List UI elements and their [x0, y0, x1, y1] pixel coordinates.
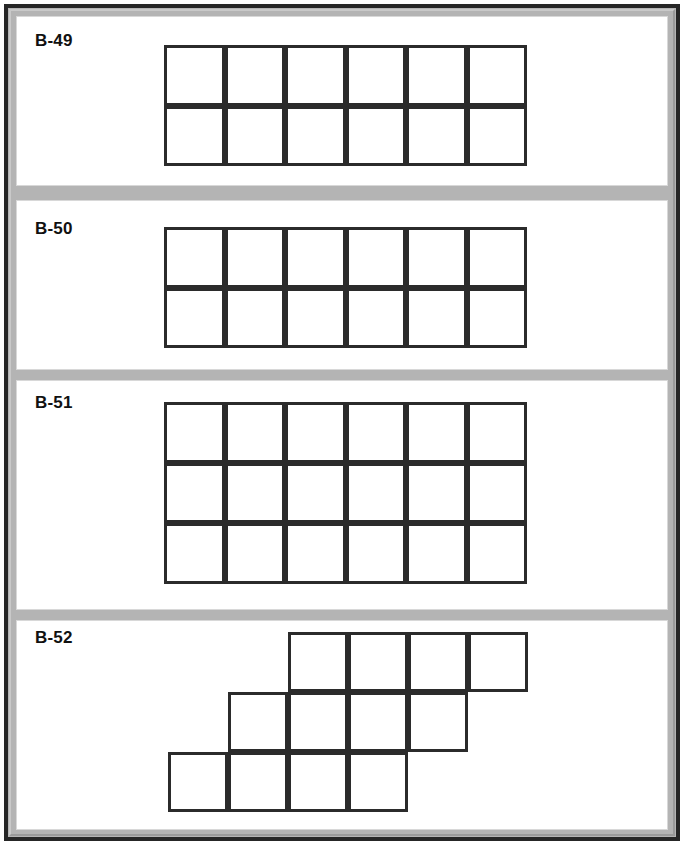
grid-cell[interactable]: [346, 463, 407, 524]
grid-cell[interactable]: [346, 402, 407, 463]
grid-cell[interactable]: [406, 402, 467, 463]
grid-cell[interactable]: [228, 692, 288, 752]
grid-cell[interactable]: [225, 288, 286, 349]
grid-cell[interactable]: [467, 227, 528, 288]
grid-cell[interactable]: [406, 227, 467, 288]
grid-cell[interactable]: [406, 463, 467, 524]
grid-cell[interactable]: [288, 752, 348, 812]
grid-cell[interactable]: [164, 106, 225, 167]
grid-cell[interactable]: [168, 752, 228, 812]
grid-cell[interactable]: [285, 288, 346, 349]
grid-cell[interactable]: [467, 402, 528, 463]
grid-cell[interactable]: [467, 463, 528, 524]
grid-cell[interactable]: [346, 106, 407, 167]
worksheet-page: B-49B-50B-51B-52: [0, 0, 684, 845]
figure-b-51: [164, 402, 527, 584]
grid-cell[interactable]: [164, 463, 225, 524]
grid-cell[interactable]: [225, 227, 286, 288]
grid-cell[interactable]: [346, 227, 407, 288]
grid-cell[interactable]: [467, 288, 528, 349]
grid-cell[interactable]: [467, 106, 528, 167]
grid-cell[interactable]: [406, 106, 467, 167]
grid-cell[interactable]: [406, 288, 467, 349]
grid-cell[interactable]: [164, 288, 225, 349]
problem-label-b-49: B-49: [35, 31, 73, 51]
grid-cell[interactable]: [164, 402, 225, 463]
grid-cell[interactable]: [225, 523, 286, 584]
problem-label-b-50: B-50: [35, 219, 73, 239]
grid-cell[interactable]: [348, 752, 408, 812]
grid-cell[interactable]: [288, 632, 348, 692]
grid-cell[interactable]: [225, 402, 286, 463]
grid-cell[interactable]: [225, 45, 286, 106]
problem-panel-b-50: B-50: [16, 200, 668, 370]
grid-cell[interactable]: [468, 632, 528, 692]
grid-cell[interactable]: [225, 106, 286, 167]
grid-cell[interactable]: [285, 106, 346, 167]
grid-cell[interactable]: [467, 45, 528, 106]
figure-b-52: [168, 632, 588, 812]
problem-panel-b-52: B-52: [16, 620, 668, 830]
grid-cell[interactable]: [285, 463, 346, 524]
grid-cell[interactable]: [285, 227, 346, 288]
grid-cell[interactable]: [346, 45, 407, 106]
grid-cell[interactable]: [164, 227, 225, 288]
problem-panel-b-49: B-49: [16, 16, 668, 186]
grid-cell[interactable]: [406, 523, 467, 584]
grid-cell[interactable]: [285, 523, 346, 584]
figure-b-50: [164, 227, 527, 348]
problem-label-b-52: B-52: [35, 628, 73, 648]
grid-cell[interactable]: [348, 632, 408, 692]
grid-cell[interactable]: [348, 692, 408, 752]
problem-panel-b-51: B-51: [16, 380, 668, 610]
grid-cell[interactable]: [285, 402, 346, 463]
grid-cell[interactable]: [467, 523, 528, 584]
grid-cell[interactable]: [346, 288, 407, 349]
grid-cell[interactable]: [285, 45, 346, 106]
grid-cell[interactable]: [225, 463, 286, 524]
grid-cell[interactable]: [408, 692, 468, 752]
grid-cell[interactable]: [346, 523, 407, 584]
grid-cell[interactable]: [288, 692, 348, 752]
problem-label-b-51: B-51: [35, 393, 73, 413]
grid-cell[interactable]: [408, 632, 468, 692]
grid-cell[interactable]: [164, 45, 225, 106]
grid-cell[interactable]: [406, 45, 467, 106]
grid-cell[interactable]: [164, 523, 225, 584]
grid-cell[interactable]: [228, 752, 288, 812]
figure-b-49: [164, 45, 527, 166]
